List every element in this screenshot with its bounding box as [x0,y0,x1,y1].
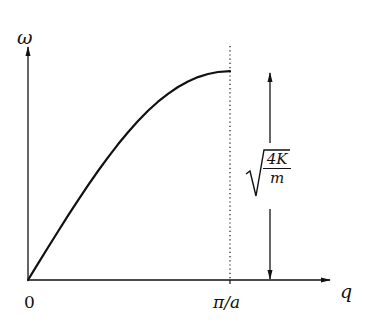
dispersion-diagram [0,0,372,335]
x-tick-label-pi-over-a: π/a [213,294,240,311]
x-axis-label: q [340,282,352,301]
origin-label: 0 [24,294,35,311]
omega-max-fraction: 4K m [263,151,291,187]
dispersion-curve [28,71,230,280]
fraction-denominator: m [263,169,291,187]
fraction-numerator: 4K [263,151,291,169]
y-axis-label: ω [17,28,33,47]
